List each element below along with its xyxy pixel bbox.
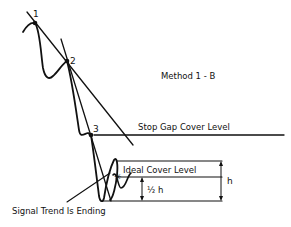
ideal-cover-marker-icon: ✳ — [114, 172, 122, 182]
trend-line-1-2 — [27, 12, 133, 145]
diagram-title: Method 1 - B — [161, 71, 215, 81]
stop-gap-cover-label: Stop Gap Cover Level — [138, 122, 230, 132]
half-h-label: ½ h — [147, 185, 163, 195]
signal-trend-ending-label: Signal Trend Is Ending — [12, 206, 106, 216]
arrow-up-icon — [219, 161, 223, 166]
h-label: h — [227, 176, 233, 186]
point-1-marker — [33, 21, 38, 26]
point-1-label: 1 — [33, 9, 39, 19]
point-2-label: 2 — [70, 56, 76, 66]
ideal-cover-label: Ideal Cover Level — [123, 165, 196, 175]
arrow-down-icon — [140, 196, 144, 201]
arrow-up-icon — [140, 177, 144, 182]
point-2-marker — [65, 59, 70, 64]
method-1b-diagram: 1 2 3 Method 1 - B Stop Gap Cover Level … — [0, 0, 291, 227]
arrow-down-icon — [219, 196, 223, 201]
point-3-label: 3 — [93, 124, 99, 134]
